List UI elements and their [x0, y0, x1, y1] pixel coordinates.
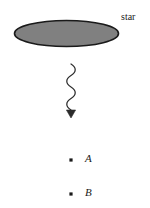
wavy-ray-line	[67, 64, 75, 110]
arrowhead-icon	[66, 110, 75, 118]
point-label-b: B	[85, 187, 92, 198]
star-ellipse	[15, 21, 119, 47]
diagram-canvas	[0, 0, 150, 208]
physics-diagram: star A B	[0, 0, 150, 208]
star-label: star	[121, 12, 135, 22]
point-marker-a	[69, 158, 72, 161]
point-label-a: A	[85, 153, 92, 164]
point-marker-b	[69, 192, 72, 195]
